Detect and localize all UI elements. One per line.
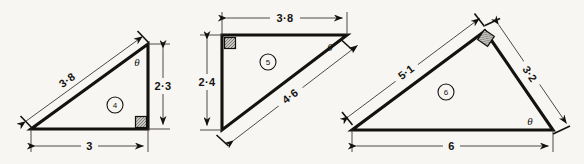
triangle-5-top-label: 3·8: [270, 10, 300, 26]
triangle-5-tag-label: 5: [266, 58, 271, 67]
triangle-5-right-angle-marker: [225, 38, 236, 49]
svg-text:3·8: 3·8: [277, 12, 294, 24]
triangle-6-right-angle-marker: [478, 30, 495, 47]
triangle-4-base-label: 3: [81, 139, 98, 154]
triangle-4-outline: [31, 44, 148, 129]
triangle-4-tag-label: 4: [113, 101, 118, 110]
svg-text:3: 3: [86, 140, 92, 152]
triangle-4-vertical-label: 2·3: [150, 78, 176, 94]
triangle-6-left-tick-start: [342, 112, 353, 125]
triangles-figure: 3·8 2·3 3 θ 4: [0, 0, 584, 164]
triangle-6-theta-label: θ: [527, 115, 533, 127]
figure-root: 3·8 2·3 3 θ 4: [0, 0, 584, 164]
triangle-5-hyp-tick-end: [342, 40, 354, 51]
triangle-5-vertical-label: 2·4: [194, 74, 220, 90]
triangle-4-right-angle-marker: [136, 117, 147, 128]
triangle-6-group: 5·1 3·2 6 θ 6: [342, 14, 570, 155]
svg-text:2·4: 2·4: [199, 76, 216, 88]
triangle-6-left-tick-end: [475, 14, 485, 27]
triangle-4-hyp-tick-end: [138, 31, 149, 43]
triangle-5-hypotenuse-label: 4·6: [273, 81, 307, 112]
triangle-4-hyp-tick-start: [21, 116, 32, 128]
svg-text:2·3: 2·3: [155, 80, 172, 92]
triangle-6-tag-label: 6: [444, 88, 449, 97]
triangle-6-right-tick-end: [553, 126, 570, 134]
triangle-4-hypotenuse-dim-line: [26, 37, 143, 122]
triangle-5-theta-label: θ: [327, 41, 333, 53]
triangle-6-right-tick-start: [485, 19, 500, 26]
svg-text:6: 6: [448, 140, 454, 152]
triangle-5-hyp-tick-start: [217, 135, 229, 146]
triangle-6-base-label: 6: [443, 139, 460, 154]
triangle-6-outline: [352, 31, 553, 130]
triangle-4-hypotenuse-label: 3·8: [51, 65, 83, 94]
triangle-4-theta-label: θ: [134, 56, 140, 68]
triangle-4-group: 3·8 2·3 3 θ 4: [21, 31, 177, 154]
triangle-5-group: 3·8 2·4 4·6 θ 5: [194, 10, 358, 146]
